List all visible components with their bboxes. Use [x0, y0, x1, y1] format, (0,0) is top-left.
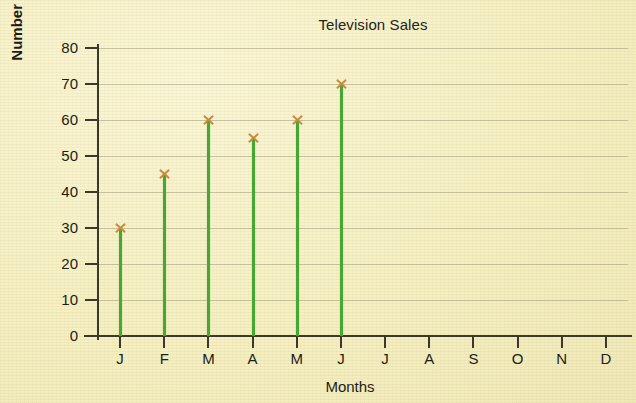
gridline [98, 192, 628, 193]
y-axis-tick-label: 70 [40, 75, 78, 92]
data-stem [207, 120, 210, 336]
data-point-marker [247, 131, 260, 144]
y-axis-tick-label: 10 [40, 291, 78, 308]
x-axis-tick [207, 337, 209, 348]
data-point-marker [335, 77, 348, 90]
data-stem [252, 138, 255, 336]
chart-title: Television Sales [0, 16, 636, 33]
x-axis-tick [252, 337, 254, 348]
x-axis-tick-label: D [589, 350, 623, 367]
data-point-marker [202, 113, 215, 126]
data-point-marker [114, 221, 127, 234]
x-axis-tick [428, 337, 430, 348]
x-axis-tick-label: J [368, 350, 402, 367]
x-axis-tick [340, 337, 342, 348]
x-axis-tick [119, 337, 121, 348]
data-point-marker [158, 167, 171, 180]
gridline [98, 156, 628, 157]
gridline [98, 48, 628, 49]
data-stem [119, 228, 122, 336]
x-axis-tick [472, 337, 474, 348]
y-axis-tick-label: 20 [40, 255, 78, 272]
y-axis-tick-label: 40 [40, 183, 78, 200]
x-axis-tick [384, 337, 386, 348]
x-axis-tick-label: J [103, 350, 137, 367]
x-axis-tick-label: O [501, 350, 535, 367]
data-stem [163, 174, 166, 336]
gridline [98, 84, 628, 85]
y-axis-tick-label: 30 [40, 219, 78, 236]
data-stem [340, 84, 343, 336]
y-axis-tick-label: 50 [40, 147, 78, 164]
x-axis-tick-label: A [236, 350, 270, 367]
x-axis-tick-label: S [456, 350, 490, 367]
gridline [98, 228, 628, 229]
y-axis-tick-label: 80 [40, 39, 78, 56]
y-axis-line [97, 44, 99, 340]
x-axis-tick-label: J [324, 350, 358, 367]
x-axis-tick-label: M [191, 350, 225, 367]
x-axis-tick-label: M [280, 350, 314, 367]
x-axis-tick-label: A [412, 350, 446, 367]
x-axis-tick [517, 337, 519, 348]
x-axis-tick [163, 337, 165, 348]
gridline [98, 120, 628, 121]
y-axis-title: Number Sold [8, 0, 25, 104]
x-axis-tick-label: N [545, 350, 579, 367]
x-axis-tick [605, 337, 607, 348]
data-point-marker [291, 113, 304, 126]
chart-canvas: Television Sales Number Sold Months 0102… [0, 0, 636, 403]
data-stem [296, 120, 299, 336]
y-axis-tick-label: 0 [40, 327, 78, 344]
x-axis-title: Months [0, 378, 636, 395]
gridline [98, 264, 628, 265]
x-axis-tick-label: F [147, 350, 181, 367]
x-axis-tick [296, 337, 298, 348]
gridline [98, 300, 628, 301]
y-axis-tick-label: 60 [40, 111, 78, 128]
x-axis-tick [561, 337, 563, 348]
